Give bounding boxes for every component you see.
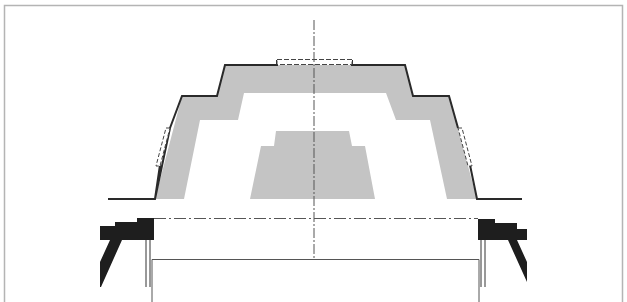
inner-core-fill <box>250 131 375 199</box>
cross-section-drawing <box>0 0 627 302</box>
drawing-frame <box>0 0 627 302</box>
lower-inner-rectangle <box>152 260 479 302</box>
